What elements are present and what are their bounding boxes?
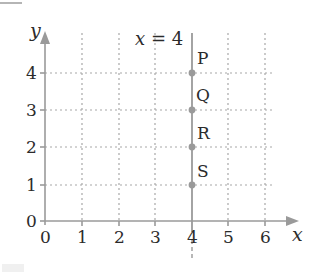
point-label-r: R: [197, 123, 211, 143]
equation-var: x: [135, 28, 145, 49]
x-tick-6: 6: [260, 227, 271, 247]
line-equation-label: x = 4: [135, 28, 183, 49]
point-label-q: Q: [196, 85, 210, 105]
x-tick-1: 1: [77, 227, 88, 247]
axes: [40, 40, 290, 226]
coordinate-plane-figure: P Q R S x = 4 y x 4 3 2 1 0 0 1 2 3 4 5 …: [0, 0, 329, 276]
x-axis-label: x: [292, 223, 303, 245]
point-r-marker: [189, 144, 196, 151]
grid-vertical: [82, 33, 265, 221]
y-axis-label: y: [29, 19, 41, 41]
point-q-marker: [189, 107, 196, 114]
equation-rest: = 4: [145, 28, 183, 49]
y-tick-1: 1: [26, 175, 37, 195]
point-p-marker: [189, 70, 196, 77]
point-s-marker: [189, 182, 196, 189]
decorative-artifact: [2, 264, 24, 272]
x-tick-5: 5: [223, 227, 234, 247]
point-label-p: P: [197, 48, 208, 68]
x-tick-3: 3: [150, 227, 161, 247]
x-tick-4: 4: [187, 227, 198, 247]
y-tick-2: 2: [26, 137, 37, 157]
y-axis-arrow-icon: [40, 31, 50, 44]
y-tick-3: 3: [26, 100, 37, 120]
x-tick-2: 2: [114, 227, 125, 247]
x-tick-0: 0: [40, 227, 51, 247]
point-label-s: S: [197, 161, 209, 181]
chart-svg: P Q R S x = 4 y x 4 3 2 1 0 0 1 2 3 4 5 …: [0, 0, 329, 276]
y-tick-4: 4: [26, 63, 37, 83]
y-tick-0: 0: [26, 211, 37, 231]
grid-horizontal: [45, 73, 274, 185]
